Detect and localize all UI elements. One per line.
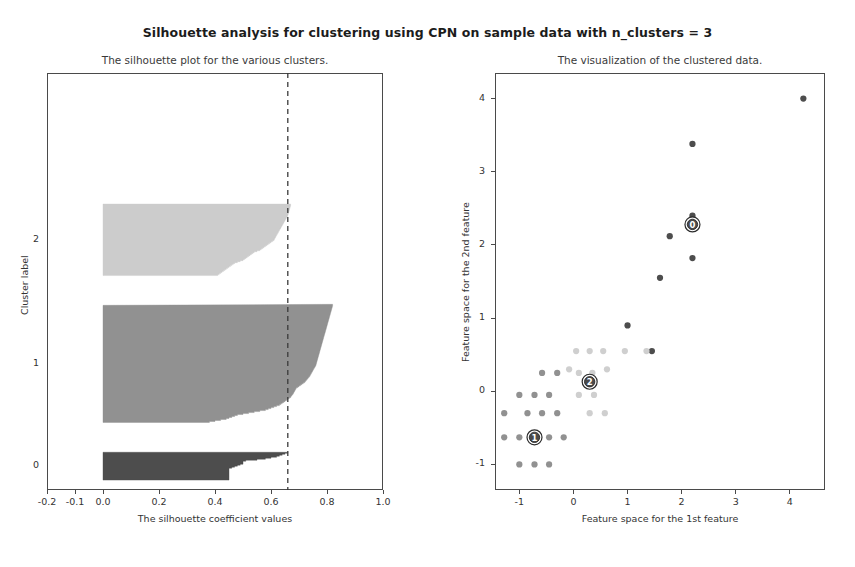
scatter-plot-area: 012 xyxy=(0,0,855,567)
cluster-center-marker-1: 1 xyxy=(527,430,542,445)
scatter-point-cluster-0 xyxy=(657,275,663,281)
cluster-center-marker-2: 2 xyxy=(582,374,597,389)
scatter-point-cluster-2 xyxy=(600,348,606,354)
x-tick-mark xyxy=(519,490,520,494)
scatter-point-cluster-1 xyxy=(546,461,552,467)
scatter-point-cluster-1 xyxy=(546,392,552,398)
cluster-center-label-1: 1 xyxy=(532,433,538,443)
scatter-x-axis-label: Feature space for the 1st feature xyxy=(495,513,825,524)
scatter-point-cluster-1 xyxy=(554,410,560,416)
scatter-point-cluster-0 xyxy=(624,322,630,328)
y-tick-mark xyxy=(491,318,495,319)
scatter-point-cluster-1 xyxy=(539,370,545,376)
scatter-point-cluster-2 xyxy=(576,392,582,398)
x-tick-label: 0 xyxy=(553,496,593,507)
scatter-point-cluster-1 xyxy=(531,392,537,398)
x-tick-label: 3 xyxy=(716,496,756,507)
y-tick-label: 0 xyxy=(457,384,485,395)
x-tick-mark xyxy=(681,490,682,494)
scatter-point-cluster-1 xyxy=(516,392,522,398)
y-tick-mark xyxy=(491,391,495,392)
y-tick-mark xyxy=(491,171,495,172)
scatter-point-cluster-1 xyxy=(561,434,567,440)
scatter-point-cluster-2 xyxy=(576,370,582,376)
scatter-point-cluster-1 xyxy=(516,434,522,440)
scatter-point-cluster-0 xyxy=(800,95,806,101)
scatter-point-cluster-2 xyxy=(591,392,597,398)
scatter-point-cluster-1 xyxy=(501,434,507,440)
scatter-point-cluster-2 xyxy=(587,410,593,416)
y-tick-label: 4 xyxy=(457,92,485,103)
scatter-point-cluster-2 xyxy=(587,348,593,354)
scatter-y-axis-label: Feature space for the 2nd feature xyxy=(460,202,471,362)
scatter-point-cluster-1 xyxy=(501,410,507,416)
scatter-point-cluster-2 xyxy=(602,410,608,416)
cluster-center-label-2: 2 xyxy=(587,377,593,387)
scatter-point-cluster-1 xyxy=(531,461,537,467)
scatter-point-cluster-0 xyxy=(689,141,695,147)
scatter-point-cluster-2 xyxy=(604,366,610,372)
y-tick-mark xyxy=(491,98,495,99)
x-tick-label: 1 xyxy=(608,496,648,507)
y-tick-label: 3 xyxy=(457,165,485,176)
scatter-point-cluster-0 xyxy=(667,233,673,239)
scatter-point-cluster-1 xyxy=(516,461,522,467)
scatter-point-cluster-2 xyxy=(643,348,649,354)
x-tick-label: 4 xyxy=(770,496,810,507)
scatter-point-cluster-0 xyxy=(649,348,655,354)
scatter-point-cluster-2 xyxy=(573,348,579,354)
figure-canvas: Silhouette analysis for clustering using… xyxy=(0,0,855,567)
x-tick-label: -1 xyxy=(499,496,539,507)
y-tick-mark xyxy=(491,244,495,245)
cluster-center-marker-0: 0 xyxy=(685,217,700,232)
x-tick-mark xyxy=(627,490,628,494)
y-tick-mark xyxy=(491,464,495,465)
scatter-point-cluster-2 xyxy=(622,348,628,354)
y-tick-label: -1 xyxy=(457,457,485,468)
scatter-point-cluster-1 xyxy=(539,410,545,416)
scatter-point-cluster-0 xyxy=(689,255,695,261)
x-tick-mark xyxy=(789,490,790,494)
x-tick-mark xyxy=(573,490,574,494)
scatter-point-cluster-1 xyxy=(546,434,552,440)
scatter-point-cluster-1 xyxy=(524,410,530,416)
x-tick-label: 2 xyxy=(662,496,702,507)
x-tick-mark xyxy=(735,490,736,494)
cluster-center-label-0: 0 xyxy=(689,220,695,230)
scatter-point-cluster-1 xyxy=(554,370,560,376)
scatter-point-cluster-2 xyxy=(566,366,572,372)
